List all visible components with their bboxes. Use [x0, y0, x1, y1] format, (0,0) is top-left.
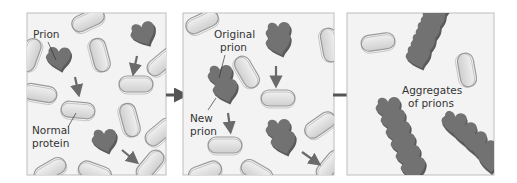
label-new-prion-2: prion	[190, 125, 217, 137]
label-original-prion-2: prion	[220, 41, 247, 53]
prion-diagram: Prion Normal protein	[0, 0, 517, 183]
label-normal-protein-2: protein	[32, 137, 69, 149]
label-prion: Prion	[33, 28, 59, 40]
label-original-prion-1: Original	[214, 28, 255, 40]
label-aggregates-2: of prions	[408, 97, 454, 109]
label-new-prion-1: New	[190, 112, 213, 124]
panel-prion-conversion: Original prion New prion	[183, 8, 349, 183]
panel-prion-aggregates: Aggregates of prions	[347, 0, 507, 183]
label-normal-protein-1: Normal	[32, 124, 70, 136]
panel-normal-proteins: Prion Normal protein	[17, 6, 182, 183]
label-aggregates-1: Aggregates	[402, 84, 462, 96]
